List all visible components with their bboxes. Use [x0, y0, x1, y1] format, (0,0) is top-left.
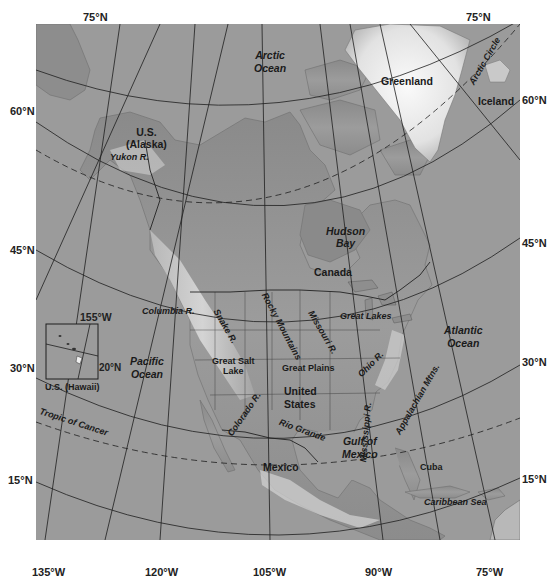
lon-label-135w: 135°W — [32, 567, 65, 578]
lon-label-120w: 120°W — [145, 567, 178, 578]
hudson-bay-label: Hudson Bay — [326, 226, 365, 248]
lat-label-30n-left: 30°N — [10, 363, 35, 374]
lon-label-75w: 75°W — [476, 567, 503, 578]
great-salt-lake-label: Great Salt Lake — [212, 357, 255, 376]
lat-label-75n-left: 75°N — [83, 12, 108, 23]
mexico-label: Mexico — [263, 462, 299, 473]
hawaii-lat-label: 20°N — [99, 363, 121, 373]
great-plains-label: Great Plains — [282, 364, 335, 373]
great-lakes-label: Great Lakes — [340, 312, 392, 321]
lat-label-60n-right: 60°N — [522, 95, 547, 106]
columbia-river-label: Columbia R. — [142, 307, 195, 316]
gulf-of-mexico-label: Gulf of Mexico — [342, 436, 378, 459]
hawaii-lon-label: 155°W — [80, 312, 112, 323]
lat-label-45n-right: 45°N — [522, 238, 547, 249]
canada-label: Canada — [314, 267, 352, 278]
pacific-ocean-label: Pacific Ocean — [130, 356, 164, 379]
atlantic-ocean-label: Atlantic Ocean — [444, 325, 483, 348]
lat-label-15n-right: 15°N — [522, 474, 547, 485]
arctic-ocean-label: Arctic Ocean — [254, 50, 286, 73]
lat-label-30n-right: 30°N — [522, 357, 547, 368]
lat-label-15n-left: 15°N — [8, 475, 33, 486]
yukon-river-label: Yukon R. — [110, 153, 149, 162]
hawaii-inset-title: U.S. (Hawaii) — [45, 383, 100, 392]
greenland-label: Greenland — [381, 76, 433, 87]
lon-label-90w: 90°W — [365, 567, 392, 578]
cuba-label: Cuba — [420, 463, 443, 472]
lat-label-60n-left: 60°N — [10, 106, 35, 117]
iceland-label: Iceland — [478, 96, 514, 107]
united-states-label: United States — [284, 386, 317, 409]
hawaii-inset — [46, 324, 98, 379]
alaska-label: U.S. (Alaska) — [126, 127, 167, 149]
lat-label-45n-left: 45°N — [10, 245, 35, 256]
caribbean-sea-label: Caribbean Sea — [424, 498, 487, 507]
lat-label-75n-right: 75°N — [466, 12, 491, 23]
lon-label-105w: 105°W — [253, 567, 286, 578]
